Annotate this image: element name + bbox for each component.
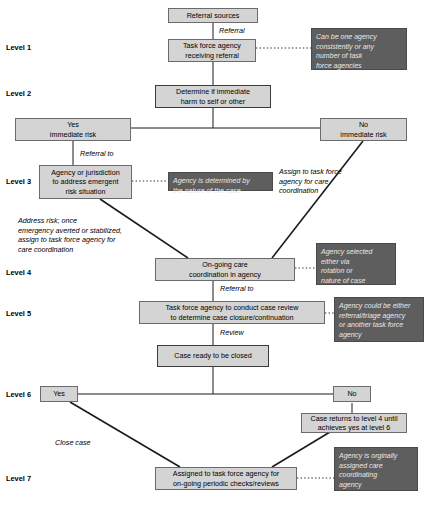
note-level5-agency-could-be: Agency could be eitherreferral/triage ag…	[334, 297, 424, 342]
node-assigned-periodic-checks-text: Assigned to task force agency foron-goin…	[173, 469, 279, 488]
node-agency-or-jurisdiction-text: Agency or jurisdictionto address emergen…	[51, 168, 119, 197]
node-agency-or-jurisdiction[interactable]: Agency or jurisdictionto address emergen…	[39, 165, 132, 199]
note-level1-text: Can be one agencyconsistently or anynumb…	[316, 32, 402, 70]
node-task-force-receiving-referral-text: Task force agencyreceiving referral	[183, 41, 241, 60]
node-case-returns-to-level4[interactable]: Case returns to level 4 untilachieves ye…	[301, 413, 407, 433]
edge-label-review: Review	[220, 328, 244, 338]
node-case-ready-to-be-closed-text: Case ready to be closed	[174, 351, 252, 361]
node-level6-yes[interactable]: Yes	[40, 386, 78, 402]
edge-label-address-risk: Address risk; onceemergency averted or s…	[18, 216, 122, 254]
level-label-6: Level 6	[6, 390, 31, 399]
edge-label-close-case: Close case	[55, 438, 91, 448]
node-ongoing-care-coordination-text: On-going carecoordination in agency	[189, 260, 261, 279]
note-level7-agency-originally-assigned: Agency is orginallyassigned carecoordina…	[334, 447, 418, 491]
note-level1-agency-count: Can be one agencyconsistently or anynumb…	[311, 28, 407, 70]
level-label-2: Level 2	[6, 89, 31, 98]
node-case-ready-to-be-closed[interactable]: Case ready to be closed	[157, 345, 269, 367]
node-no-immediate-risk-text: Noimmediate risk	[340, 120, 386, 139]
node-level6-yes-text: Yes	[53, 389, 65, 399]
level-label-4: Level 4	[6, 268, 31, 277]
edge-label-assign-to-task-force: Assign to task forceagency for carecoord…	[279, 167, 342, 196]
level-label-5: Level 5	[6, 309, 31, 318]
note-level4-text: Agency selectedeither viarotation ornatu…	[321, 247, 391, 285]
edge-label-referral-to-level3: Referral to	[80, 149, 114, 159]
node-level6-no-text: No	[347, 389, 356, 399]
node-task-force-receiving-referral[interactable]: Task force agencyreceiving referral	[168, 39, 256, 62]
node-yes-immediate-risk[interactable]: Yesimmediate risk	[15, 118, 131, 141]
node-case-review-text: Task force agency to conduct case review…	[165, 303, 298, 322]
node-referral-sources[interactable]: Referral sources	[168, 8, 258, 23]
note-level3-agency-determined: Agency is determined bythe nature of the…	[168, 172, 273, 191]
edge-label-referral-to-level5: Referral to	[220, 284, 254, 294]
node-no-immediate-risk[interactable]: Noimmediate risk	[320, 118, 407, 141]
level-label-1: Level 1	[6, 43, 31, 52]
node-level6-no[interactable]: No	[333, 386, 371, 402]
flowchart-canvas: Level 1 Level 2 Level 3 Level 4 Level 5 …	[0, 0, 426, 512]
edge-label-referral: Referral	[219, 26, 245, 36]
node-assigned-periodic-checks[interactable]: Assigned to task force agency foron-goin…	[155, 467, 297, 490]
node-determine-immediate-harm[interactable]: Determine if immediateharm to self or ot…	[155, 85, 271, 108]
note-level4-agency-selected: Agency selectedeither viarotation ornatu…	[316, 243, 396, 285]
node-ongoing-care-coordination[interactable]: On-going carecoordination in agency	[155, 258, 295, 281]
node-referral-sources-text: Referral sources	[187, 11, 240, 21]
note-level3-text: Agency is determined bythe nature of the…	[173, 176, 268, 195]
node-case-returns-to-level4-text: Case returns to level 4 untilachieves ye…	[310, 414, 397, 433]
note-level5-text: Agency could be eitherreferral/triage ag…	[339, 301, 419, 339]
note-level7-text: Agency is orginallyassigned carecoordina…	[339, 451, 413, 489]
level-label-3: Level 3	[6, 177, 31, 186]
connector-case-returns-to-assigned	[272, 432, 330, 467]
node-case-review[interactable]: Task force agency to conduct case review…	[139, 301, 325, 324]
level-label-7: Level 7	[6, 474, 31, 483]
node-determine-immediate-harm-text: Determine if immediateharm to self or ot…	[176, 87, 250, 106]
node-yes-immediate-risk-text: Yesimmediate risk	[50, 120, 96, 139]
connector-yes-to-assigned	[70, 402, 180, 467]
connector-no-risk-to-ongoing	[272, 141, 363, 258]
